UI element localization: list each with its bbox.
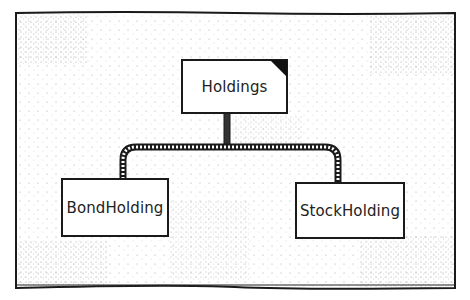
folded-corner-icon <box>270 60 287 77</box>
node-bondholding-label: BondHolding <box>67 199 164 217</box>
diagram-frame <box>0 0 470 300</box>
node-stockholding: StockHolding <box>295 182 405 239</box>
node-holdings: Holdings <box>181 59 288 114</box>
node-holdings-label: Holdings <box>202 78 268 96</box>
diagram-canvas: Holdings BondHolding StockHolding <box>0 0 470 300</box>
node-bondholding: BondHolding <box>61 178 169 237</box>
node-stockholding-label: StockHolding <box>300 202 400 220</box>
